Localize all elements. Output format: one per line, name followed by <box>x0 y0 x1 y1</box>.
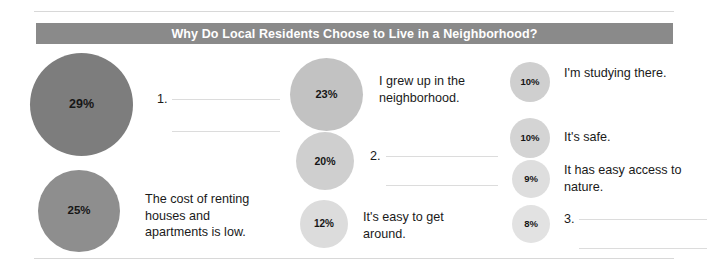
divider-top <box>34 11 674 12</box>
blank-answer-3: 3. <box>564 209 708 227</box>
bubble-10-percent-studying: 10% <box>510 62 550 102</box>
bubble-item-20: 20% 2. <box>296 132 500 190</box>
blank-writing-line <box>172 131 280 132</box>
bubble-29-percent: 29% <box>30 53 133 156</box>
bubble-item-10-safe: 10% It's safe. <box>510 118 704 158</box>
bubble-9-percent: 9% <box>512 160 550 198</box>
blank-writing-line <box>579 248 707 249</box>
blank-answer-2: 2. <box>370 146 500 164</box>
worksheet-page: Why Do Local Residents Choose to Live in… <box>0 0 708 273</box>
bubble-23-percent: 23% <box>290 58 363 131</box>
bubble-12-percent: 12% <box>300 200 348 248</box>
bubble-item-25: 25% The cost of renting houses and apart… <box>38 170 275 252</box>
bubble-label-10-safe: It's safe. <box>564 129 704 146</box>
blank-writing-line <box>386 185 498 186</box>
bubble-label-12: It's easy to get around. <box>363 209 487 242</box>
blank-number-3: 3. <box>564 212 575 226</box>
blank-number-1: 1. <box>157 92 168 106</box>
bubble-20-percent: 20% <box>296 132 354 190</box>
bubble-label-10-studying: I'm studying there. <box>564 65 704 82</box>
blank-answer-1: 1. <box>157 89 281 107</box>
bubble-item-29: 29% 1. <box>30 53 281 156</box>
bubble-25-percent: 25% <box>38 170 120 252</box>
blank-number-2: 2. <box>370 149 381 163</box>
bubble-item-9: 9% It has easy access to nature. <box>512 160 706 198</box>
blank-writing-line <box>172 99 280 100</box>
blank-writing-line <box>386 156 498 157</box>
bubble-item-10-studying: 10% I'm studying there. <box>510 62 704 102</box>
bubble-10-percent-safe: 10% <box>510 118 550 158</box>
divider-bottom <box>34 258 674 259</box>
bubble-item-12: 12% It's easy to get around. <box>300 200 487 248</box>
bubble-8-percent: 8% <box>512 205 550 243</box>
bubble-label-25: The cost of renting houses and apartment… <box>145 191 275 241</box>
page-title: Why Do Local Residents Choose to Live in… <box>171 27 537 41</box>
chart-title-banner: Why Do Local Residents Choose to Live in… <box>36 23 673 44</box>
bubble-label-9: It has easy access to nature. <box>564 162 706 195</box>
bubble-item-23: 23% I grew up in the neighborhood. <box>290 58 501 131</box>
blank-writing-line <box>579 219 707 220</box>
bubble-label-23: I grew up in the neighborhood. <box>379 73 501 106</box>
bubble-item-8: 8% 3. <box>512 205 708 243</box>
